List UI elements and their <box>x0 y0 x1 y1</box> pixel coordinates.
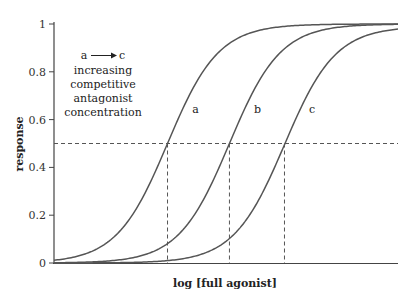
y-tick-label: 0.4 <box>29 161 47 174</box>
annotation-line-2: competitive <box>70 78 135 91</box>
y-tick-label: 0 <box>39 257 46 270</box>
curve-label-b: b <box>254 103 261 116</box>
y-axis-title: response <box>13 116 26 171</box>
annotation-line-1: increasing <box>74 64 132 77</box>
reference-lines <box>54 144 398 264</box>
x-axis-title: log [full agonist] <box>173 277 277 290</box>
curve-labels: abc <box>192 103 315 116</box>
curve-label-a: a <box>192 103 199 116</box>
y-tick-label: 0.8 <box>29 66 47 79</box>
annotation-line-4: concentration <box>64 106 142 119</box>
curve-a <box>54 24 398 260</box>
y-ticks: 00.20.40.60.81 <box>29 18 55 270</box>
arrowhead-icon <box>111 53 117 59</box>
annotation-from: a <box>81 49 88 62</box>
curve-label-c: c <box>309 103 315 116</box>
y-tick-label: 1 <box>39 18 46 31</box>
y-tick-label: 0.6 <box>29 114 47 127</box>
annotation: a c increasing competitive antagonist co… <box>64 49 142 119</box>
y-tick-label: 0.2 <box>29 209 47 222</box>
annotation-to: c <box>119 49 125 62</box>
dose-response-chart: 00.20.40.60.81 abc log [full agonist] re… <box>0 0 417 294</box>
annotation-line-3: antagonist <box>74 92 134 105</box>
